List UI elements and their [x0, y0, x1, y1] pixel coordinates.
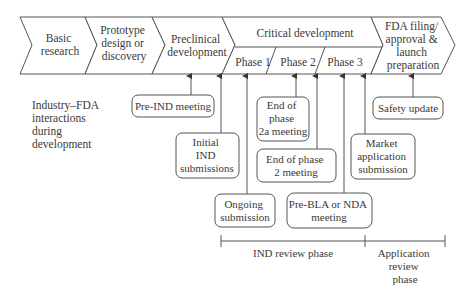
phase-1-label: Phase 1 — [235, 56, 271, 68]
interaction-eop2: End of phase 2 meeting — [257, 149, 336, 182]
svg-text:Safety update: Safety update — [378, 102, 438, 114]
interaction-ongoing: Ongoing submission — [215, 194, 275, 227]
side-label: Industry–FDA interactions during develop… — [32, 99, 101, 151]
stage-label-basic: Basic research — [41, 32, 80, 57]
stage-label-critical: Critical development — [257, 27, 355, 40]
interaction-safety-update: Safety update — [373, 97, 443, 119]
interaction-market-application: Market application submission — [351, 134, 415, 179]
phase-2-label: Phase 2 — [280, 56, 316, 68]
ind-review-phase-label: IND review phase — [253, 247, 333, 259]
svg-text:End of phase 2 meeting: End of phase 2 meeting — [266, 153, 326, 178]
application-review-phase-label: Application review phase — [378, 247, 433, 285]
interaction-initial-ind: Initial IND submissions — [176, 133, 239, 178]
interaction-eop2a: End of phase 2a meeting — [257, 97, 309, 141]
interaction-pre-bla: Pre-BLA or NDA meeting — [287, 193, 372, 228]
interaction-pre-ind: Pre-IND meeting — [132, 95, 214, 117]
svg-text:Ongoing submission: Ongoing submission — [220, 198, 270, 223]
industry-fda-interaction-diagram: Basic research Prototype design or disco… — [0, 0, 468, 298]
review-timeline — [221, 235, 445, 247]
svg-text:Pre-IND meeting: Pre-IND meeting — [135, 100, 212, 112]
stage-label-preclinical: Preclinical development — [167, 33, 227, 59]
phase-3-label: Phase 3 — [327, 56, 363, 68]
stage-label-prototype: Prototype design or discovery — [100, 24, 148, 63]
